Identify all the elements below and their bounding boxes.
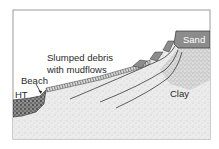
- slumped-debris-label-line2: with mudflows: [46, 64, 107, 75]
- slumped-debris-label-line1: Slumped debris: [47, 52, 113, 63]
- cliff-cross-section-diagram: Sand Clay Slumped debris with mudflows B…: [0, 0, 219, 149]
- clay-label: Clay: [170, 88, 189, 99]
- high-tide-label: HT: [15, 89, 28, 100]
- beach-label: Beach: [21, 75, 48, 86]
- sand-label: Sand: [183, 34, 205, 45]
